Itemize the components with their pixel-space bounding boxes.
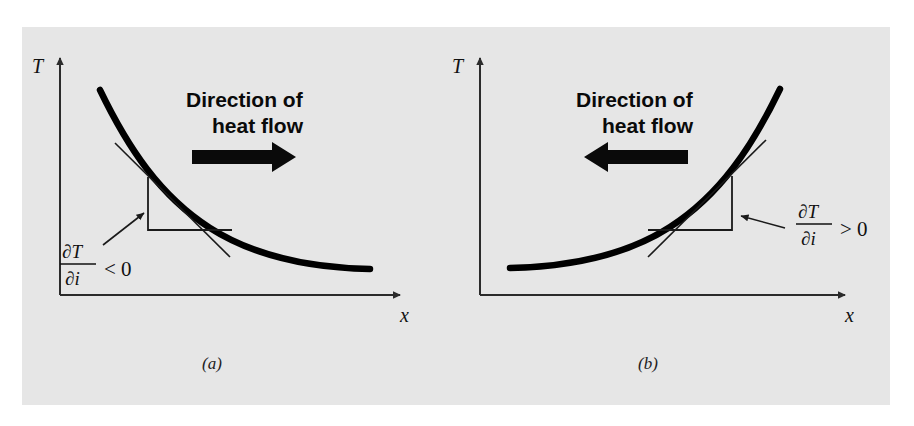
- panel-a-derivative-denominator: ∂i: [65, 268, 80, 289]
- panel-a-derivative-expression: ∂T ∂i < 0: [60, 241, 132, 289]
- panel-b-derivative-expression: ∂T ∂i > 0: [796, 201, 868, 249]
- panel-a-y-axis-label: T: [32, 55, 45, 77]
- panel-b-derivative-numerator: ∂T: [798, 201, 819, 222]
- panel-a-derivative-pointer: [103, 213, 144, 245]
- figure-root: T x Direction of heat flow ∂T ∂i <: [0, 0, 914, 426]
- panel-a-caption: (a): [202, 354, 222, 373]
- panel-b-derivative-pointer: [741, 216, 785, 228]
- figure-svg: T x Direction of heat flow ∂T ∂i <: [0, 0, 914, 426]
- panel-b-flow-label-line1: Direction of: [576, 88, 694, 111]
- panel-b-derivative-denominator: ∂i: [801, 228, 816, 249]
- panel-b-flow-label-line2: heat flow: [602, 114, 694, 137]
- panel-a-derivative-relation: < 0: [104, 257, 132, 281]
- panel-b-x-axis-label: x: [844, 304, 854, 326]
- panel-a-flow-label-line2: heat flow: [212, 114, 304, 137]
- panel-b-derivative-relation: > 0: [840, 217, 868, 241]
- panel-a-derivative-numerator: ∂T: [62, 241, 83, 262]
- panel-a-heat-flow-arrow: [192, 142, 296, 172]
- panel-b: T x Direction of heat flow ∂T ∂i >: [452, 55, 868, 373]
- panel-b-heat-flow-arrow: [584, 142, 688, 172]
- panel-a-x-axis-label: x: [399, 304, 409, 326]
- panel-b-y-axis-label: T: [452, 55, 465, 77]
- panel-a: T x Direction of heat flow ∂T ∂i <: [32, 55, 409, 373]
- panel-a-flow-label-line1: Direction of: [186, 88, 304, 111]
- panel-b-caption: (b): [638, 354, 658, 373]
